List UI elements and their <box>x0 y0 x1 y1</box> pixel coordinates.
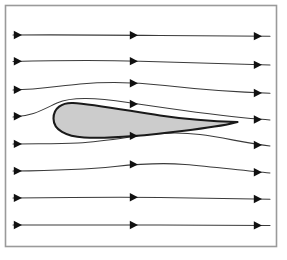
streamline-8 <box>13 225 270 226</box>
flow-diagram-canvas <box>0 0 287 260</box>
airfoil-flow-figure: Airfoil streamline flow diagram Uniform … <box>0 0 287 260</box>
